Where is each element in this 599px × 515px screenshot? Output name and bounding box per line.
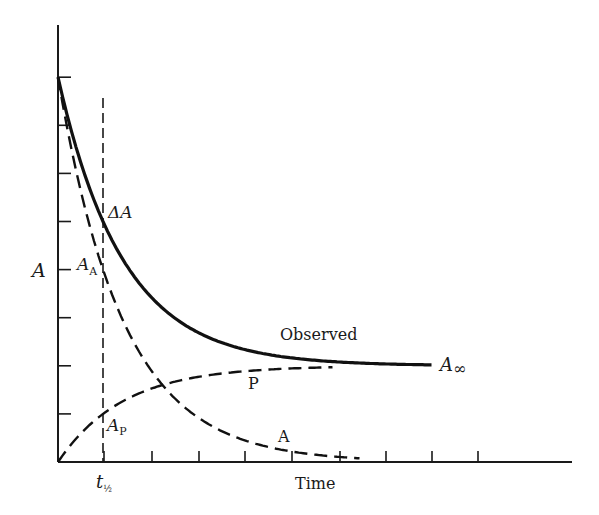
x-axis-label: Time (295, 474, 335, 493)
x-ticks (104, 451, 478, 462)
delta-a-label: ΔA (107, 202, 133, 222)
y-axis-label: A (30, 259, 46, 281)
kinetics-chart: A ΔA AA AP A∞ Observed P A Time t½ (0, 0, 599, 515)
a-curve-label: A (277, 427, 290, 446)
a-a-label: AA (75, 254, 98, 278)
t-half-label: t½ (96, 471, 112, 494)
observed-label: Observed (280, 325, 357, 344)
a-p-label: AP (105, 415, 127, 438)
p-curve-label: P (248, 374, 259, 393)
a-inf-label: A∞ (438, 354, 466, 378)
